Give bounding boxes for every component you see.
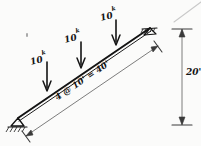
point-load-1-arrow: [43, 62, 51, 91]
rise-dimension-line: [172, 29, 192, 125]
rise-dimension-label: 20': [186, 68, 201, 77]
point-load-2-arrow: [77, 42, 85, 68]
pin-support-left: [6, 118, 27, 132]
scan-streak: [174, 2, 201, 22]
point-load-3-arrow: [112, 20, 120, 45]
scan-speck: [26, 33, 28, 37]
figure-canvas: 10k 10k 10k 4 @ 10' = 40' 20': [0, 0, 201, 146]
